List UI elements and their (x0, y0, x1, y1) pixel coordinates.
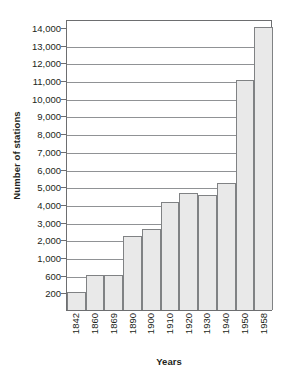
bar (236, 80, 255, 310)
y-tick-label: 13,000 (32, 40, 61, 51)
y-tick-label: 6,000 (37, 164, 61, 175)
x-tick-label: 1958 (258, 313, 269, 334)
x-tick-label: 1920 (183, 313, 194, 334)
x-tick-label: 1930 (201, 313, 212, 334)
y-tick-label: 2,000 (37, 235, 61, 246)
x-axis-title: Years (66, 356, 272, 367)
y-axis-ticks: 14,00013,00012,00011,00010,0009,0008,000… (0, 20, 66, 311)
y-tick-label: 7,000 (37, 146, 61, 157)
y-tick-label: 1,000 (37, 252, 61, 263)
y-tick-label: 8,000 (37, 129, 61, 140)
bar (198, 195, 217, 310)
x-tick-label: 1910 (164, 313, 175, 334)
plot-area (66, 20, 272, 311)
bar (123, 236, 142, 310)
y-tick-label: 11,000 (33, 76, 61, 87)
bar (161, 202, 180, 310)
y-tick-label: 12,000 (32, 58, 61, 69)
x-tick-label: 1950 (239, 313, 250, 334)
x-axis-ticks: 1842186018691890190019101920193019401950… (66, 313, 272, 353)
bar (142, 229, 161, 310)
x-tick-label: 1860 (89, 313, 100, 334)
y-tick-label: 5,000 (37, 182, 61, 193)
x-tick-label: 1900 (145, 313, 156, 334)
x-tick-label: 1869 (108, 313, 119, 334)
y-tick-label: 4,000 (37, 199, 61, 210)
bar (104, 275, 123, 310)
y-tick-label: 14,000 (32, 23, 61, 34)
x-tick-label: 1890 (127, 313, 138, 334)
bar (86, 275, 105, 310)
y-tick-label: 9,000 (37, 111, 61, 122)
bar (179, 193, 198, 310)
bar (67, 292, 86, 310)
bar-chart: Number of stations 14,00013,00012,00011,… (0, 0, 288, 376)
y-tick-label: 600 (45, 270, 61, 281)
y-tick-label: 200 (45, 288, 61, 299)
bar (217, 183, 236, 310)
x-tick-label: 1940 (220, 313, 231, 334)
y-tick-label: 10,000 (32, 93, 61, 104)
y-tick-label: 3,000 (37, 217, 61, 228)
x-tick-label: 1842 (70, 313, 81, 334)
bar (254, 27, 273, 310)
bar-series (67, 21, 271, 310)
